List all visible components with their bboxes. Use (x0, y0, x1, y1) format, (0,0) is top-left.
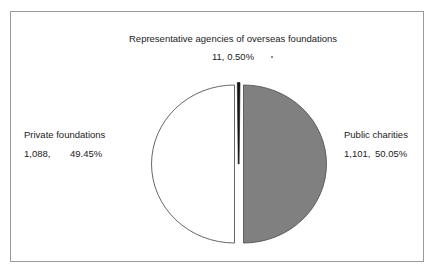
slice-label-public-percent: 50.05% (375, 148, 407, 159)
scan-artifact-dot (271, 56, 273, 58)
pie-slice-private-foundations[interactable] (152, 85, 235, 243)
pie-chart-svg (150, 80, 332, 250)
slice-label-public-title: Public charities (344, 130, 408, 140)
slice-label-overseas-title: Representative agencies of overseas foun… (129, 34, 337, 44)
slice-label-overseas-agencies: Representative agencies of overseas foun… (129, 34, 337, 62)
slice-label-overseas-value: 11, 0.50% (129, 52, 337, 62)
pie-slice-public-charities[interactable] (244, 85, 327, 243)
slice-label-public-value: 1,101,50.05% (344, 149, 408, 159)
slice-label-public-count: 1,101, (344, 149, 375, 159)
slice-label-private-percent: 49.45% (70, 148, 102, 159)
slice-label-private-foundations: Private foundations 1,088,49.45% (24, 130, 105, 159)
slice-label-public-charities: Public charities 1,101,50.05% (344, 130, 408, 159)
slice-label-private-count: 1,088, (24, 149, 70, 159)
pie-chart-plot-area: Representative agencies of overseas foun… (0, 0, 432, 277)
slice-label-private-title: Private foundations (24, 130, 105, 140)
pie-slice-overseas-agencies[interactable] (237, 83, 240, 165)
slice-label-private-value: 1,088,49.45% (24, 149, 105, 159)
